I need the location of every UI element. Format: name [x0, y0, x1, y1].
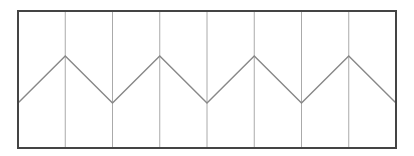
diagram-canvas	[0, 0, 414, 156]
vertical-dividers	[65, 11, 349, 148]
zigzag-diagram	[0, 0, 414, 156]
